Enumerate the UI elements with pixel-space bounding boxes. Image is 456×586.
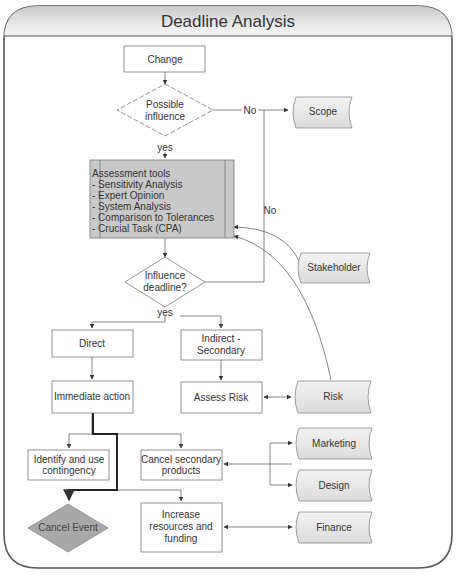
label-yes-2: yes xyxy=(157,307,173,318)
decision-influence-deadline-line2: deadline? xyxy=(143,282,187,293)
assessment-title: Assessment tools xyxy=(92,168,170,179)
data-marketing-label: Marketing xyxy=(312,438,356,449)
process-indirect-secondary[interactable]: Indirect - Secondary xyxy=(181,330,262,360)
process-assessment-tools[interactable]: Assessment tools - Sensitivity Analysis … xyxy=(90,160,234,238)
decision-influence-deadline-line1: Influence xyxy=(145,270,186,281)
decision-possible-influence-line2: influence xyxy=(145,111,185,122)
process-assess-risk-label: Assess Risk xyxy=(194,392,249,403)
terminal-cancel-event-label: Cancel Event xyxy=(38,522,98,533)
process-identify-line2: contingency xyxy=(42,465,95,476)
flowchart-canvas: Deadline Analysis Change Possible i xyxy=(0,0,456,586)
process-increase-line3: funding xyxy=(165,533,198,544)
data-stakeholder[interactable]: Stakeholder xyxy=(298,253,370,283)
data-finance-label: Finance xyxy=(316,522,352,533)
assessment-item: - System Analysis xyxy=(92,201,171,212)
data-design[interactable]: Design xyxy=(296,470,372,501)
data-marketing[interactable]: Marketing xyxy=(296,428,372,459)
data-risk-label: Risk xyxy=(323,391,343,402)
decision-possible-influence-line1: Possible xyxy=(146,99,184,110)
assessment-item: - Comparison to Tolerances xyxy=(92,212,214,223)
process-identify-contingency[interactable]: Identify and use contingency xyxy=(28,450,109,480)
process-increase-resources[interactable]: Increase resources and funding xyxy=(141,503,222,552)
data-risk[interactable]: Risk xyxy=(295,381,371,413)
assessment-item: - Crucial Task (CPA) xyxy=(92,223,182,234)
process-indirect-line2: Secondary xyxy=(197,345,245,356)
process-immediate-action[interactable]: Immediate action xyxy=(52,381,133,413)
process-direct-label: Direct xyxy=(79,338,105,349)
diagram-title: Deadline Analysis xyxy=(161,12,295,31)
data-scope[interactable]: Scope xyxy=(293,97,352,128)
node-change[interactable]: Change xyxy=(124,46,205,72)
process-assess-risk[interactable]: Assess Risk xyxy=(181,382,262,413)
assessment-item: - Sensitivity Analysis xyxy=(92,179,183,190)
data-stakeholder-label: Stakeholder xyxy=(307,262,361,273)
data-design-label: Design xyxy=(318,480,349,491)
label-no-2: No xyxy=(264,205,277,216)
process-cancel-secondary-line1: Cancel secondary xyxy=(141,454,221,465)
process-identify-line1: Identify and use xyxy=(34,454,105,465)
process-immediate-action-label: Immediate action xyxy=(54,391,130,402)
process-increase-line2: resources and xyxy=(149,521,212,532)
data-scope-label: Scope xyxy=(309,106,338,117)
label-no-1: No xyxy=(244,105,257,116)
data-finance[interactable]: Finance xyxy=(296,512,372,543)
process-indirect-line1: Indirect - xyxy=(202,333,241,344)
process-increase-line1: Increase xyxy=(162,509,201,520)
diagram-frame: Deadline Analysis xyxy=(4,6,452,568)
process-cancel-secondary-products[interactable]: Cancel secondary products xyxy=(141,450,222,480)
process-direct[interactable]: Direct xyxy=(52,330,133,357)
node-change-label: Change xyxy=(147,54,182,65)
label-yes-1: yes xyxy=(157,142,173,153)
assessment-item: - Expert Opinion xyxy=(92,190,164,201)
process-cancel-secondary-line2: products xyxy=(162,465,200,476)
